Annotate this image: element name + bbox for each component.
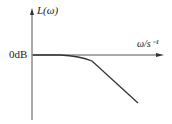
- x-axis-arrow-icon: [156, 53, 164, 57]
- x-axis-label: ω/s⁻¹: [137, 38, 159, 49]
- magnitude-curve: [33, 55, 138, 103]
- y-axis-arrow-icon: [30, 8, 34, 15]
- bode-plot: [0, 0, 172, 124]
- zero-db-label: 0dB: [9, 48, 27, 60]
- y-axis-label: L(ω): [37, 4, 58, 16]
